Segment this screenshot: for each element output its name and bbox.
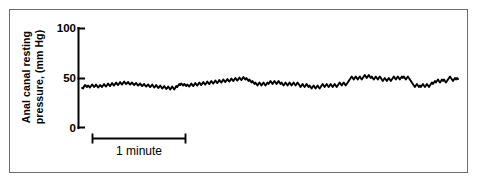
scale-bar (92, 134, 186, 144)
scale-bar-caption: 1 minute (92, 144, 186, 158)
figure-root: Anal canal resting pressure, (mm Hg) 100… (0, 0, 479, 183)
y-tick-label-100: 100 (50, 23, 76, 34)
y-tick-label-50: 50 (50, 73, 76, 84)
pressure-trace-line (82, 75, 458, 90)
y-tick-label-0: 0 (50, 123, 76, 134)
